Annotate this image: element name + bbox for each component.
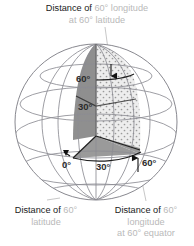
label-longitude-60: 60° <box>142 157 157 168</box>
leader-line-bottom-left <box>47 198 60 200</box>
globe-distance-diagram: 60° 30° 0° 30° 60° Distance of 60° longi… <box>0 0 194 246</box>
callout-bottom-left-line1-faded: 60° <box>63 205 77 215</box>
callout-bottom-right-line3: at 60° equator <box>115 228 177 240</box>
callout-top-longitude-at-60-latitude: Distance of 60° longitude at 60° latitud… <box>46 3 148 26</box>
label-latitude-30: 30° <box>78 101 93 112</box>
callout-top-line2: at 60° latitude <box>46 15 148 27</box>
label-longitude-30: 30° <box>96 161 111 172</box>
callout-bottom-left-line2: latitude <box>15 217 77 229</box>
globe: 60° 30° 0° 30° 60° <box>15 44 177 208</box>
callout-bottom-right-line2: longitude <box>115 217 177 229</box>
callout-bottom-right-line1-faded: 60° <box>163 205 177 215</box>
callout-bottom-left-line1: Distance of 60° <box>15 205 77 217</box>
callout-bottom-left-latitude: Distance of 60° latitude <box>15 205 77 228</box>
label-latitude-60: 60° <box>76 73 91 84</box>
callout-bottom-left-line1-solid: Distance of <box>15 205 61 215</box>
callout-bottom-right-line1-solid: Distance of <box>115 205 161 215</box>
callout-top-line1-faded: 60° longitude <box>94 3 148 13</box>
callout-bottom-right-line1: Distance of 60° <box>115 205 177 217</box>
callout-bottom-right-longitude-at-equator: Distance of 60° longitude at 60° equator <box>115 205 177 240</box>
label-longitude-0: 0° <box>62 159 71 170</box>
callout-top-line1: Distance of 60° longitude <box>46 3 148 15</box>
callout-top-line1-solid: Distance of <box>46 3 92 13</box>
